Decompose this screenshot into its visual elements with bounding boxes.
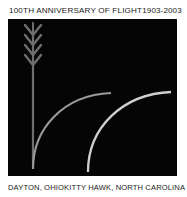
header-title: 100TH ANNIVERSARY OF FLIGHT xyxy=(9,6,142,16)
header-year-range: 1903-2003 xyxy=(142,6,182,16)
artwork-panel xyxy=(8,19,177,176)
anniversary-of-flight-emblem: 100TH ANNIVERSARY OF FLIGHT 1903-2003 xyxy=(0,0,187,197)
footer-caption-left: DAYTON, OHIO xyxy=(8,183,64,193)
emblem-footer: DAYTON, OHIO KITTY HAWK, NORTH CAROLINA xyxy=(0,181,187,195)
emblem-header: 100TH ANNIVERSARY OF FLIGHT 1903-2003 xyxy=(0,3,187,18)
footer-caption-right: KITTY HAWK, NORTH CAROLINA xyxy=(64,183,185,193)
flight-arc-outer xyxy=(88,92,171,172)
wheat-stalk-icon xyxy=(25,23,41,166)
artwork-svg xyxy=(8,19,177,176)
